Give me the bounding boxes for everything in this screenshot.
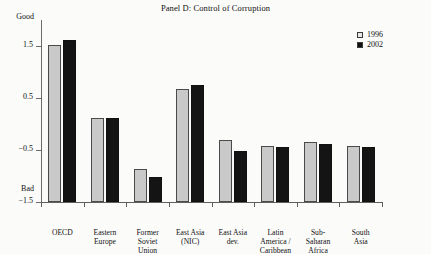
x-axis-tick <box>126 202 127 207</box>
x-axis-label: SouthAsia <box>332 228 390 246</box>
y-axis-top-label: Good <box>0 12 34 21</box>
x-axis-tick <box>339 202 340 207</box>
x-axis-tick <box>41 202 42 207</box>
bar-group <box>134 20 162 202</box>
chart-title: Panel D: Control of Corruption <box>0 3 431 13</box>
y-axis-bottom-label: Bad <box>0 184 34 193</box>
bar-group <box>261 20 289 202</box>
x-axis-tick <box>254 202 255 207</box>
y-axis-tick-label: −0.5 <box>18 144 33 153</box>
legend-label-1996: 1996 <box>367 30 383 40</box>
light-square-swatch-icon <box>357 32 363 38</box>
bar-2002 <box>276 147 289 202</box>
bar-group <box>176 20 204 202</box>
bar-group <box>48 20 76 202</box>
x-axis-tick <box>212 202 213 207</box>
x-axis-tick <box>169 202 170 207</box>
bar-1996 <box>176 89 189 202</box>
y-axis-tick-label: 0.5 <box>23 92 33 101</box>
bar-2002 <box>149 177 162 202</box>
legend-label-2002: 2002 <box>367 40 383 50</box>
bar-2002 <box>63 40 76 202</box>
y-axis-tick-label: −1.5 <box>18 196 33 205</box>
bar-1996 <box>134 169 147 202</box>
x-axis-label-line: South <box>332 228 390 237</box>
y-axis-tick: 1.5 <box>36 46 41 47</box>
dark-square-swatch-icon <box>357 42 363 48</box>
x-axis-tick <box>297 202 298 207</box>
y-axis-tick-label: 1.5 <box>23 40 33 49</box>
bar-group <box>219 20 247 202</box>
y-axis-tick: −0.5 <box>36 150 41 151</box>
x-axis-tick <box>382 202 383 207</box>
bar-1996 <box>91 118 104 202</box>
bar-1996 <box>261 146 274 202</box>
bar-1996 <box>347 146 360 202</box>
bar-1996 <box>48 45 61 202</box>
bar-2002 <box>319 144 332 202</box>
chart-container: Panel D: Control of Corruption Good Bad … <box>0 0 431 254</box>
legend-item-1996: 1996 <box>357 30 383 40</box>
plot-area: 1.50.5−0.5−1.5OECDEasternEuropeFormerSov… <box>41 20 382 202</box>
y-axis-tick: 0.5 <box>36 98 41 99</box>
bar-group <box>304 20 332 202</box>
bar-2002 <box>234 151 247 202</box>
bar-2002 <box>106 118 119 202</box>
x-axis-label-line: Africa <box>289 246 347 254</box>
bar-2002 <box>191 85 204 202</box>
x-axis-label-line: Union <box>119 246 177 254</box>
bar-1996 <box>219 140 232 202</box>
bar-1996 <box>304 142 317 202</box>
legend-item-2002: 2002 <box>357 40 383 50</box>
x-axis-tick <box>84 202 85 207</box>
bar-2002 <box>362 147 375 202</box>
chart-legend: 1996 2002 <box>357 30 383 50</box>
x-axis-label-line: Asia <box>332 237 390 246</box>
bar-group <box>91 20 119 202</box>
